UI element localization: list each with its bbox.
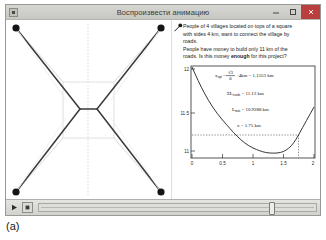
plot-ytick-11-5: 11.5 [180,111,189,116]
problem-line-5: roads. Is this money enough for this pro… [183,53,319,61]
animation-slider[interactable] [38,203,317,212]
steiner-network-diagram[interactable] [6,20,172,199]
window-title-bar[interactable]: Воспроизвести анимацию [6,5,320,20]
plot-xtick-2: 2 [312,161,315,166]
problem-line-3: roads. [183,38,319,46]
plot-ytick-11: 11 [184,149,189,154]
problem-line-5-a: roads. Is this money [183,53,231,59]
right-pane: People of 4 villages located on tops of … [172,20,320,199]
problem-line-5-b: for this project? [250,53,287,59]
plot-xtick-1-5: 1.5 [280,161,287,166]
close-button[interactable] [301,5,320,19]
diagram-ghost-network [16,28,161,192]
animation-player-toolbar [6,199,320,215]
plot-xtick-0: 0 [191,161,194,166]
pushpin-icon [174,23,183,32]
window-app-icon [9,8,18,17]
problem-line-1: People of 4 villages located on tops of … [183,23,319,31]
problem-line-5-emphasis: enough [231,53,250,59]
window-content: People of 4 villages located on tops of … [6,20,320,199]
problem-statement: People of 4 villages located on tops of … [174,23,319,61]
stop-button[interactable] [22,202,33,213]
slider-thumb[interactable] [269,202,275,215]
window-controls [267,5,320,19]
figure-caption: (a) [6,220,19,232]
plot-ytick-12: 12 [184,67,190,72]
village-top-left [12,24,19,31]
plot-xtick-1: 1 [252,161,255,166]
problem-line-4: People have money to build only 11 km of… [183,46,319,54]
cost-function-plot[interactable]: 12 11.5 11 0 0.5 1 1.5 2 [175,63,318,198]
village-top-right [157,24,164,31]
village-bottom-right [157,188,164,195]
village-bottom-left [12,188,19,195]
minimize-button[interactable] [267,5,284,19]
problem-line-2: with sides 4 km, want to connect the vil… [183,31,319,39]
animation-window: Воспроизвести анимацию [5,4,321,216]
plot-xtick-0-5: 0.5 [219,161,226,166]
maximize-button[interactable] [284,5,301,19]
plot-frame [191,66,315,158]
play-button[interactable] [9,202,20,213]
